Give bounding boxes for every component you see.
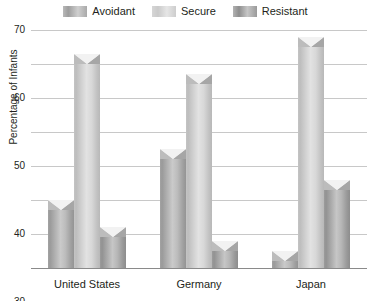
bar-slot xyxy=(298,30,324,268)
bar-group xyxy=(31,30,143,268)
bar-avoidant-germany[interactable] xyxy=(160,149,186,268)
legend-swatch-resistant xyxy=(233,6,257,17)
bar-body xyxy=(74,59,100,268)
legend-swatch-secure xyxy=(152,6,176,17)
legend-label-avoidant: Avoidant xyxy=(92,6,135,17)
x-axis-label-japan: Japan xyxy=(255,276,367,292)
bar-avoidant-united-states[interactable] xyxy=(48,200,74,268)
bar-secure-japan[interactable] xyxy=(298,37,324,268)
legend-swatch-avoidant xyxy=(63,6,87,17)
bar-top-bevel xyxy=(324,180,350,190)
bar-group xyxy=(255,30,367,268)
bar-body xyxy=(160,154,186,268)
bar-resistant-germany[interactable] xyxy=(212,241,238,268)
bar-slot xyxy=(212,30,238,268)
y-axis-tick: 30 xyxy=(14,297,25,301)
legend-item-resistant: Resistant xyxy=(233,6,308,17)
bar-secure-germany[interactable] xyxy=(186,74,212,268)
bar-body xyxy=(186,79,212,268)
legend-label-resistant: Resistant xyxy=(262,6,308,17)
bar-top-bevel xyxy=(272,251,298,261)
plot-area: 706050403020100 xyxy=(31,30,367,268)
bar-groups xyxy=(31,30,367,268)
bar-slot xyxy=(160,30,186,268)
bar-top-bevel xyxy=(298,37,324,47)
bar-top-bevel xyxy=(100,227,126,237)
x-axis-label-germany: Germany xyxy=(143,276,255,292)
bar-chart: Avoidant Secure Resistant Percentage of … xyxy=(0,0,371,301)
bar-top-bevel xyxy=(74,54,100,64)
legend-item-avoidant: Avoidant xyxy=(63,6,135,17)
bar-body xyxy=(324,185,350,268)
x-axis-label-united-states: United States xyxy=(31,276,143,292)
bar-slot xyxy=(74,30,100,268)
y-axis-tick: 50 xyxy=(14,161,25,171)
bar-resistant-japan[interactable] xyxy=(324,180,350,268)
y-axis-tick: 40 xyxy=(14,229,25,239)
y-axis-tick: 60 xyxy=(14,93,25,103)
bar-slot xyxy=(186,30,212,268)
bar-slot xyxy=(48,30,74,268)
bar-body xyxy=(48,205,74,268)
bar-secure-united-states[interactable] xyxy=(74,54,100,268)
bar-top-bevel xyxy=(160,149,186,159)
chart-legend: Avoidant Secure Resistant xyxy=(0,3,371,19)
bar-top-bevel xyxy=(186,74,212,84)
bar-body xyxy=(100,232,126,268)
x-axis-categories: United StatesGermanyJapan xyxy=(31,276,367,292)
axis-baseline: 0 xyxy=(31,268,367,269)
bar-group xyxy=(143,30,255,268)
bar-slot xyxy=(100,30,126,268)
y-axis-tick: 70 xyxy=(14,25,25,35)
bar-avoidant-japan[interactable] xyxy=(272,251,298,268)
bar-resistant-united-states[interactable] xyxy=(100,227,126,268)
bar-top-bevel xyxy=(48,200,74,210)
legend-item-secure: Secure xyxy=(152,6,216,17)
bar-slot xyxy=(272,30,298,268)
legend-label-secure: Secure xyxy=(181,6,216,17)
bar-slot xyxy=(324,30,350,268)
bar-body xyxy=(298,42,324,268)
bar-top-bevel xyxy=(212,241,238,251)
